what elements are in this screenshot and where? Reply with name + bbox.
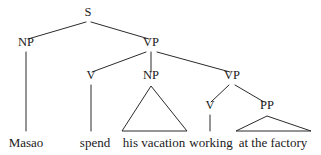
node-v-spend: V [86,69,95,82]
node-np-subject: NP [18,36,34,49]
tree-lines-canvas [0,0,321,155]
leaf-spend: spend [80,136,110,149]
edge-s-np [28,22,86,39]
node-s: S [85,6,92,19]
edge-vp-vp [157,52,230,72]
node-vp-main: VP [143,36,159,49]
edge-vp-v [92,52,146,72]
leaf-his-vacation: his vacation [123,136,185,149]
leaf-at-the-factory: at the factory [239,136,308,149]
node-vp-embedded: VP [224,69,240,82]
edge-s-vp [91,22,149,39]
leaf-working: working [189,136,232,149]
triangle-np-his-vacation [122,86,187,131]
tree-triangles-group [122,86,311,131]
node-v-working: V [205,99,214,112]
leaf-masao: Masao [9,136,44,149]
node-np-object: NP [143,69,159,82]
node-pp: PP [260,99,274,112]
triangle-pp-at-the-factory [236,116,311,131]
syntax-tree-figure: S NP VP V NP VP V PP Masaospendhis vacat… [0,0,321,155]
